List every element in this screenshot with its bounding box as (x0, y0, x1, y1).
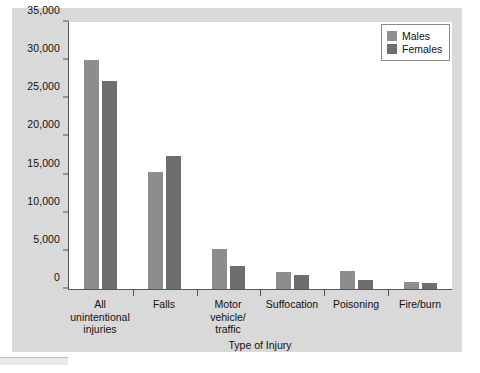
legend-item-males[interactable]: Males (387, 30, 442, 42)
x-axis-category-label: Fire/burn (388, 298, 452, 336)
x-axis-category-label: Allunintentionalinjuries (68, 298, 132, 336)
bar-males[interactable] (340, 271, 355, 289)
x-axis-tick-mark (197, 289, 198, 296)
x-axis-category-labels: AllunintentionalinjuriesFallsMotorvehicl… (68, 298, 452, 336)
chart-legend: Males Females (381, 24, 450, 61)
x-axis-category-label: Motorvehicle/traffic (196, 298, 260, 336)
legend-label-males: Males (402, 30, 430, 42)
chart-figure-panel: 05,00010,00015,00020,00025,00030,00035,0… (12, 8, 462, 352)
plot-area: 05,00010,00015,00020,00025,00030,00035,0… (68, 22, 452, 290)
legend-label-females: Females (402, 43, 442, 55)
x-axis-tick-mark (388, 289, 389, 296)
bar-females[interactable] (358, 280, 373, 289)
bar-group (133, 22, 197, 289)
bar-group (197, 22, 261, 289)
x-axis-tick-mark (133, 289, 134, 296)
x-axis-category-label: Poisoning (324, 298, 388, 336)
bar-group (69, 22, 133, 289)
bar-groups (69, 22, 452, 289)
bar-group (260, 22, 324, 289)
bar-females[interactable] (102, 81, 117, 289)
x-axis-tick-mark (324, 289, 325, 296)
bar-females[interactable] (294, 275, 309, 289)
y-axis-tick-label: 15,000 (27, 157, 60, 169)
legend-swatch-males-icon (387, 31, 397, 41)
x-axis-title: Type of Injury (68, 339, 452, 351)
x-axis-tick-mark (260, 289, 261, 296)
bar-females[interactable] (230, 266, 245, 289)
y-axis-tick-label: 10,000 (27, 195, 60, 207)
bar-males[interactable] (84, 60, 99, 289)
bar-males[interactable] (212, 249, 227, 289)
x-axis-category-label: Suffocation (260, 298, 324, 336)
x-axis-category-label: Falls (132, 298, 196, 336)
y-axis-tick-label: 5,000 (33, 233, 60, 245)
legend-swatch-females-icon (387, 44, 397, 54)
page-bottom-strip (0, 357, 68, 365)
bar-males[interactable] (276, 272, 291, 289)
bar-females[interactable] (166, 156, 181, 289)
y-axis-tick-label: 20,000 (27, 118, 60, 130)
bar-males[interactable] (404, 282, 419, 289)
bar-group (388, 22, 452, 289)
bar-males[interactable] (148, 172, 163, 289)
y-axis-tick-label: 0 (54, 271, 60, 283)
y-axis-tick-label: 25,000 (27, 80, 60, 92)
bar-group (324, 22, 388, 289)
y-axis-tick-label: 35,000 (27, 4, 60, 16)
y-axis-tick-label: 30,000 (27, 42, 60, 54)
bar-females[interactable] (422, 283, 437, 289)
legend-item-females[interactable]: Females (387, 43, 442, 55)
